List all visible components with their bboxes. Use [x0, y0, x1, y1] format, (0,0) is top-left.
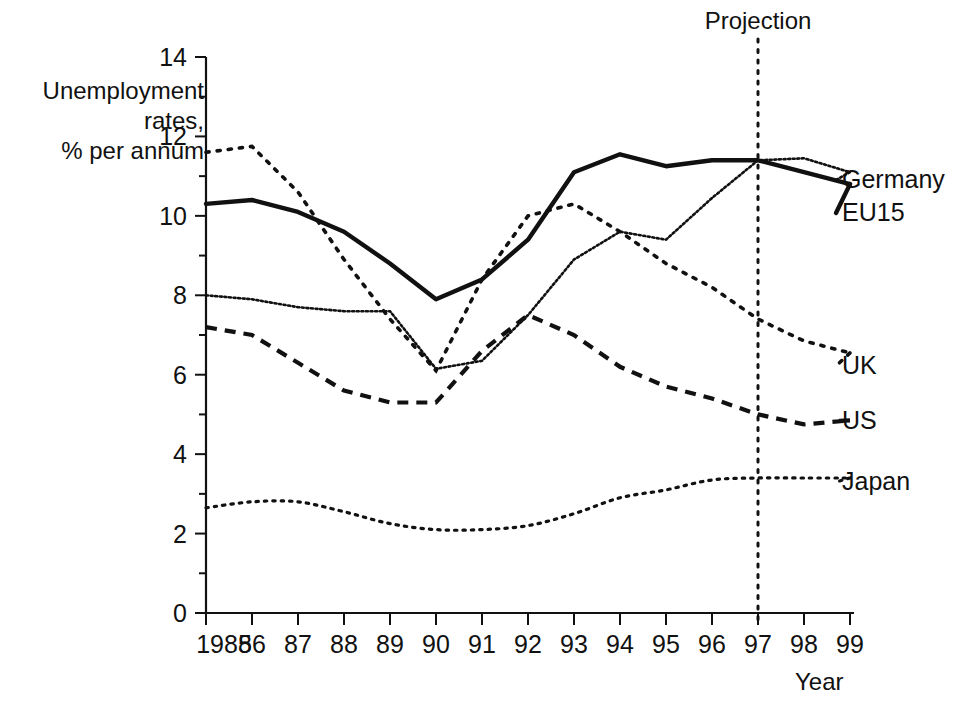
x-tick-label: 86 — [238, 630, 266, 658]
chart-canvas: 02468101214 1985868788899091929394959697… — [0, 0, 953, 712]
x-tick-label: 91 — [468, 630, 496, 658]
x-tick-label: 94 — [606, 630, 634, 658]
series-line-eu15 — [206, 154, 850, 299]
y-tick-label: 12 — [159, 122, 187, 150]
x-tick-label: 92 — [514, 630, 542, 658]
x-tick-label: 90 — [422, 630, 450, 658]
series-label-germany: Germany — [842, 165, 945, 193]
series-line-japan — [206, 478, 850, 530]
y-tick-label: 0 — [173, 599, 187, 627]
x-tick-labels: 19858687888990919293949596979899 — [196, 630, 864, 658]
x-axis-title: Year — [795, 668, 844, 695]
x-tick-label: 93 — [560, 630, 588, 658]
x-tick-label: 87 — [284, 630, 312, 658]
y-tick-labels: 02468101214 — [159, 43, 187, 627]
series-label-japan: Japan — [842, 467, 910, 495]
series-label-eu15: EU15 — [842, 198, 905, 226]
y-tick-label: 2 — [173, 520, 187, 548]
unemployment-rates-chart: Unemployment rates, % per annum 02468101… — [0, 0, 953, 712]
x-tick-label: 97 — [744, 630, 772, 658]
series-line-germany — [206, 158, 850, 368]
y-tick-label: 14 — [159, 43, 187, 71]
y-tick-label: 6 — [173, 361, 187, 389]
x-tick-label: 99 — [836, 630, 864, 658]
series-label-us: US — [842, 406, 877, 434]
projection-label: Projection — [705, 7, 812, 34]
x-tick-label: 96 — [698, 630, 726, 658]
series-label-uk: UK — [842, 351, 877, 379]
x-tick-label: 95 — [652, 630, 680, 658]
y-tick-label: 10 — [159, 202, 187, 230]
y-tick-label: 4 — [173, 440, 187, 468]
series-line-uk — [206, 146, 850, 370]
x-tick-label: 88 — [330, 630, 358, 658]
x-tick-label: 98 — [790, 630, 818, 658]
y-tick-label: 8 — [173, 281, 187, 309]
series-line-us — [206, 315, 850, 424]
x-tick-marks — [206, 613, 850, 625]
x-tick-label: 89 — [376, 630, 404, 658]
